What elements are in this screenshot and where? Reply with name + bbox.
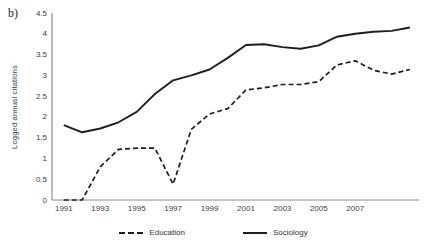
x-tick-label: 2007 — [346, 204, 364, 213]
figure-panel-b: b) Logged annual citations 00.511.522.53… — [0, 0, 427, 247]
sociology-line-sample-icon — [243, 232, 267, 234]
legend-label-education: Education — [149, 228, 185, 237]
sociology-line — [64, 28, 410, 133]
y-tick-label: 3 — [43, 71, 48, 80]
x-tick-label: 1993 — [91, 204, 109, 213]
x-tick-label: 2003 — [274, 204, 292, 213]
x-tick-label: 1999 — [201, 204, 219, 213]
education-line-sample-icon — [119, 232, 143, 234]
x-tick-label: 2001 — [237, 204, 255, 213]
chart-legend: Education Sociology — [0, 228, 427, 237]
education-line — [64, 61, 410, 200]
legend-item-sociology: Sociology — [243, 228, 308, 237]
citations-line-chart: 00.511.522.533.544.519911993199519971999… — [0, 0, 427, 247]
y-tick-label: 3.5 — [36, 50, 48, 59]
y-tick-label: 1.5 — [36, 133, 48, 142]
y-tick-label: 0 — [43, 196, 48, 205]
y-tick-label: 2 — [43, 112, 48, 121]
y-tick-label: 4 — [43, 29, 48, 38]
y-tick-label: 0.5 — [36, 175, 48, 184]
x-tick-label: 2005 — [310, 204, 328, 213]
y-tick-label: 4.5 — [36, 9, 48, 18]
x-tick-label: 1997 — [164, 204, 182, 213]
x-tick-label: 1995 — [128, 204, 146, 213]
y-tick-label: 2.5 — [36, 92, 48, 101]
legend-item-education: Education — [119, 228, 185, 237]
legend-label-sociology: Sociology — [273, 228, 308, 237]
y-tick-label: 1 — [43, 154, 48, 163]
x-tick-label: 1991 — [55, 204, 73, 213]
